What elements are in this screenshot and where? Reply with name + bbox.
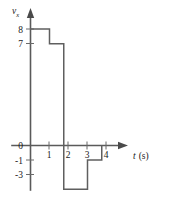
x-tick-label-3: 3 <box>85 150 90 160</box>
y-tick-label-7: 7 <box>18 39 23 49</box>
y-axis-title-subscript: x <box>15 11 19 18</box>
x-tick-label-2: 2 <box>66 150 71 160</box>
x-axis-group <box>12 142 128 149</box>
y-tick-label-minus1: -1 <box>15 156 23 166</box>
velocity-step-curve <box>31 29 102 189</box>
y-axis-group <box>27 8 34 190</box>
y-axis-arrowhead <box>27 8 34 18</box>
x-axis-title-symbol: t <box>133 151 136 161</box>
plot-canvas: 8 7 0 -1 -3 1 2 3 4 vx t(s) <box>0 0 169 202</box>
x-tick-label-1: 1 <box>47 150 52 160</box>
x-axis-title-unit: (s) <box>139 151 149 162</box>
y-axis-title: vx <box>12 6 19 18</box>
y-tick-label-8: 8 <box>18 25 23 35</box>
y-tick-label-0: 0 <box>18 141 23 151</box>
y-axis-tick-labels: 8 7 0 -1 -3 <box>15 25 23 181</box>
x-axis-tick-labels: 1 2 3 4 <box>47 150 109 160</box>
y-tick-label-minus3: -3 <box>15 170 23 180</box>
velocity-time-figure: 8 7 0 -1 -3 1 2 3 4 vx t(s) <box>0 0 169 202</box>
x-tick-label-4: 4 <box>104 150 109 160</box>
x-axis-arrowhead <box>118 142 128 149</box>
x-axis-title: t(s) <box>133 151 149 162</box>
